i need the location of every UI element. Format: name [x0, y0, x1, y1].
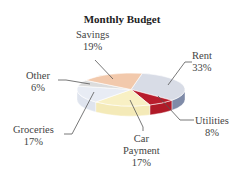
label-groceries: Groceries 17% [13, 124, 54, 148]
label-savings: Savings 19% [76, 29, 109, 53]
label-savings-value: 19% [76, 41, 109, 53]
label-utilities-value: 8% [195, 127, 229, 139]
label-groceries-name: Groceries [13, 124, 54, 136]
label-car-payment: Car Payment 17% [123, 133, 160, 169]
label-utilities: Utilities 8% [195, 115, 229, 139]
label-rent-name: Rent [192, 50, 212, 62]
pie-slices [77, 73, 185, 106]
label-rent: Rent 33% [192, 50, 212, 74]
label-car-payment-name: Car [123, 133, 160, 145]
label-savings-name: Savings [76, 29, 109, 41]
label-car-payment-value: 17% [123, 157, 160, 169]
label-rent-value: 33% [192, 62, 212, 74]
label-car-payment-line2: Payment [123, 145, 160, 157]
label-other: Other 6% [26, 70, 50, 94]
label-groceries-value: 17% [13, 136, 54, 148]
label-other-name: Other [26, 70, 50, 82]
label-other-value: 6% [26, 82, 50, 94]
label-utilities-name: Utilities [195, 115, 229, 127]
